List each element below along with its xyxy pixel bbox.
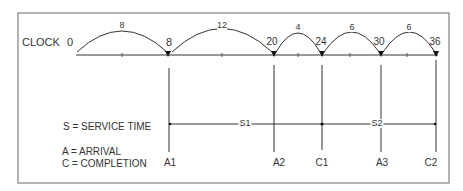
- interval-label: 12: [217, 21, 227, 30]
- interval-label: 6: [406, 23, 411, 32]
- clock-label: CLOCK: [22, 37, 60, 48]
- tick-label: 30: [373, 37, 384, 47]
- tick-label: 20: [266, 37, 277, 47]
- interval-label: 6: [349, 23, 354, 32]
- event-label: A1: [164, 158, 176, 168]
- event-lines: [169, 60, 436, 152]
- event-label: A2: [273, 158, 285, 168]
- tick-label: 0: [67, 37, 73, 48]
- tick-label: 24: [315, 37, 326, 47]
- legend-service: S = SERVICE TIME: [63, 122, 151, 132]
- event-label: C1: [316, 158, 329, 168]
- interval-label: 8: [119, 21, 124, 30]
- arrowheads: [165, 51, 439, 57]
- legend-arrival: A = ARRIVAL: [62, 147, 121, 157]
- service-label: S1: [238, 119, 251, 128]
- service-label: S2: [370, 119, 383, 128]
- tick-label: 8: [166, 37, 172, 48]
- legend-completion: C = COMPLETION: [62, 159, 147, 169]
- event-label: A3: [376, 158, 388, 168]
- tick-label: 36: [429, 37, 440, 47]
- event-label: C2: [425, 158, 438, 168]
- interval-label: 4: [295, 23, 300, 32]
